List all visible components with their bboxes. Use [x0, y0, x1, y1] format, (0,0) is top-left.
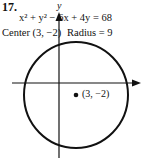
- point-label: (3, −2): [82, 88, 109, 99]
- equation: x² + y² − 6x + 4y = 68: [19, 12, 112, 23]
- circle-graph: [0, 0, 147, 158]
- y-axis-label: y: [57, 0, 61, 11]
- x-axis-arrow-icon: [132, 80, 141, 87]
- center-point: [74, 93, 79, 98]
- problem-number: 17.: [2, 0, 17, 15]
- radius-label: Radius = 9: [67, 27, 113, 38]
- center-label: Center (3, −2): [2, 27, 61, 38]
